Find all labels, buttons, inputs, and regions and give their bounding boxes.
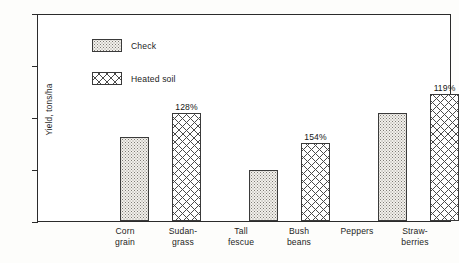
x-label-peppers: Peppers: [327, 226, 387, 237]
x-label-corn-grain: Corn grain: [95, 226, 155, 247]
x-label-line: fescue: [211, 237, 271, 248]
legend-label: Heated soil: [131, 74, 176, 84]
plot-area-frame: Yield, tons/ha 40 30 20 10 0 Check: [37, 14, 451, 222]
x-label-line: Corn: [95, 226, 155, 237]
y-tick-mark: [32, 170, 38, 171]
legend-label: Check: [131, 41, 156, 51]
x-label-sudan-grass: Sudan- grass: [153, 226, 213, 247]
bar-percent-label: 119%: [434, 83, 456, 93]
y-tick-mark: [32, 222, 38, 223]
x-label-line: Tall: [211, 226, 271, 237]
bar-check: [120, 137, 149, 221]
x-label-line: beans: [269, 237, 329, 248]
x-label-line: berries: [385, 237, 445, 248]
y-tick-mark: [32, 118, 38, 119]
bar-heated-soil: 154%: [301, 143, 330, 221]
legend-item-heated-soil: Heated soil: [92, 72, 176, 85]
x-label-line: Straw-: [385, 226, 445, 237]
x-label-line: grass: [153, 237, 213, 248]
bar-percent-label: 128%: [175, 102, 197, 112]
x-label-strawberries: Straw- berries: [385, 226, 445, 247]
x-label-line: Peppers: [327, 226, 387, 237]
x-label-line: Bush: [269, 226, 329, 237]
x-label-tall-fescue: Tall fescue: [211, 226, 271, 247]
bar-heated-soil: 128%: [172, 113, 201, 221]
bar-percent-label: 154%: [304, 132, 326, 142]
x-label-bush-beans: Bush beans: [269, 226, 329, 247]
x-label-line: Sudan-: [153, 226, 213, 237]
legend-swatch-check-icon: [92, 39, 122, 52]
legend-item-check: Check: [92, 39, 156, 52]
yield-bar-chart-figure: Yield, tons/ha 40 30 20 10 0 Check: [0, 0, 459, 263]
y-tick-mark: [32, 66, 38, 67]
y-axis-title: Yield, tons/ha: [45, 55, 54, 165]
legend-swatch-heated-soil-icon: [92, 72, 122, 85]
y-tick-mark: [32, 14, 38, 15]
bar-heated-soil: 119%: [430, 94, 459, 221]
x-label-line: grain: [95, 237, 155, 248]
bar-check: [249, 170, 278, 221]
bar-check: [378, 113, 407, 221]
